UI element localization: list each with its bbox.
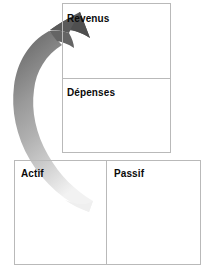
cell-label-revenus: Revenus: [67, 13, 109, 24]
cell-label-actif: Actif: [21, 168, 44, 179]
cell-label-passif: Passif: [114, 168, 144, 179]
diagram-canvas: Revenus Dépenses Actif Passif: [0, 0, 215, 278]
income-expense-divider: [63, 78, 170, 79]
cell-label-depenses: Dépenses: [67, 87, 115, 98]
assets-liabilities-divider: [106, 161, 107, 264]
income-expense-box: [62, 3, 171, 153]
